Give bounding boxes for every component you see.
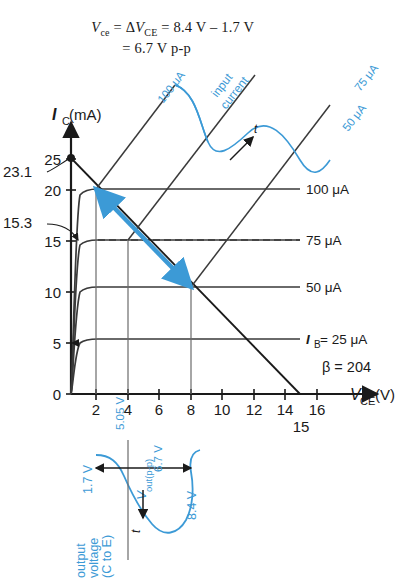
output-pp-label: V out(p-p) 6.7 V <box>134 445 164 500</box>
output-label-mid: 5.05 V <box>114 396 126 430</box>
x-tick-label: 2 <box>92 401 100 418</box>
curve-label-75ua: 75 μA <box>306 233 342 248</box>
input-time-arrow: t <box>230 122 258 160</box>
projection-lines-to-input <box>96 75 330 287</box>
x-tick-label-15: 15 <box>293 418 310 435</box>
y-tick-label: 5 <box>53 335 61 352</box>
value-callouts: 23.1 15.3 <box>3 159 78 240</box>
input-time-symbol: t <box>254 122 258 136</box>
x-axis-title: V CE (V) <box>350 386 395 407</box>
x-tick-label: 6 <box>155 401 163 418</box>
axis-lines <box>71 136 364 394</box>
characteristic-curves <box>71 189 300 394</box>
input-sine-path <box>175 85 330 172</box>
x-axis-title-unit: (V) <box>375 386 395 403</box>
y-tick-label: 10 <box>44 284 61 301</box>
x-tick-label: 8 <box>187 401 195 418</box>
output-label-max: 8.4 V <box>185 490 199 520</box>
curve-100ua <box>71 189 300 394</box>
load-line-ic-intercept-dot <box>67 154 75 162</box>
output-time-symbol: t <box>129 529 143 533</box>
curve-label-ib-symbol: I <box>306 332 310 347</box>
input-label-100ua: 100 μA <box>155 69 187 106</box>
output-title-line1: output <box>74 543 88 578</box>
curve-label-100ua: 100 μA <box>306 182 349 197</box>
input-label-50ua: 50 μA <box>340 102 368 134</box>
y-tick-label: 15 <box>44 233 61 250</box>
callout-15p3: 15.3 <box>3 214 32 231</box>
dc-load-line <box>71 158 300 394</box>
ac-swing-arrow <box>96 189 191 287</box>
output-pp-value: 6.7 V <box>152 445 164 472</box>
figure-container: Vce = ΔVCE = 8.4 V – 1.7 V = 6.7 V p-p <box>0 0 407 585</box>
x-tick-label: 14 <box>277 401 294 418</box>
curve-50ua <box>71 287 300 394</box>
input-label-75ua: 75 μA <box>352 62 380 94</box>
y-axis-title: I C (mA) <box>52 106 102 127</box>
y-axis-tick-labels: 0 5 10 15 20 25 <box>44 151 61 403</box>
curve-end-labels: 100 μA 75 μA 50 μA I B = 25 μA β = 204 <box>306 182 371 375</box>
x-tick-label: 12 <box>246 401 263 418</box>
x-axis-title-subscript: CE <box>360 395 375 407</box>
output-label-min: 1.7 V <box>81 464 95 494</box>
beta-label: β = 204 <box>322 359 371 375</box>
curve-label-ib-value: = 25 μA <box>320 332 367 347</box>
curve-25ua <box>71 339 300 394</box>
input-current-waveform <box>175 85 330 172</box>
callout-23p1: 23.1 <box>3 163 32 180</box>
output-title-line3: (C to E) <box>100 535 114 578</box>
input-wave-labels: 100 μA 50 μA 75 μA input current <box>155 62 380 134</box>
y-axis-title-symbol: I <box>52 106 57 123</box>
curve-label-50ua: 50 μA <box>306 280 342 295</box>
input-sine-first-half <box>175 85 208 142</box>
y-tick-label: 20 <box>44 182 61 199</box>
output-wave-title: output voltage (C to E) <box>74 535 114 578</box>
x-tick-label: 16 <box>309 401 326 418</box>
x-tick-label: 10 <box>214 401 231 418</box>
y-axis-title-unit: (mA) <box>69 106 102 123</box>
output-title-line2: voltage <box>87 538 101 578</box>
curve-75ua <box>71 240 300 394</box>
y-tick-label: 0 <box>53 386 61 403</box>
x-axis-tick-labels: 2 4 6 8 10 12 14 16 15 <box>92 401 326 435</box>
characteristic-curves-chart: 0 5 10 15 20 25 I C (mA) 2 4 <box>0 0 407 585</box>
